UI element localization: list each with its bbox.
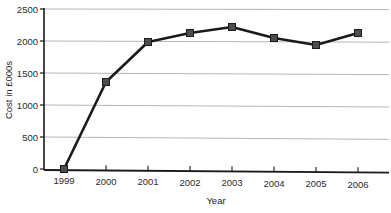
data-point-2006[interactable]	[355, 30, 362, 37]
y-axis-title: Cost in £000s	[3, 61, 14, 119]
x-tick-label-2000: 2000	[95, 176, 116, 187]
y-tick-label-1000: 1000	[17, 100, 38, 111]
x-tick-label-1999: 1999	[53, 175, 74, 186]
x-tick-label-2004: 2004	[263, 178, 284, 189]
x-tick-label-2003: 2003	[221, 177, 242, 188]
chart-canvas: 2500 2000 1500 1000 500 0 Cost in £000s …	[0, 0, 391, 213]
y-tick-label-2500: 2500	[17, 4, 38, 15]
data-point-2004[interactable]	[271, 35, 278, 42]
line-chart: 2500 2000 1500 1000 500 0 Cost in £000s …	[0, 0, 391, 213]
y-tick-label-2000: 2000	[17, 36, 38, 47]
data-point-2002[interactable]	[187, 30, 194, 37]
y-tick-label-500: 500	[22, 132, 38, 143]
gridline-2500	[44, 9, 389, 10]
x-tick-label-2002: 2002	[179, 177, 200, 188]
x-axis-title: Year	[206, 195, 225, 206]
data-point-2001[interactable]	[145, 39, 152, 46]
data-point-2003[interactable]	[229, 24, 236, 31]
data-point-2005[interactable]	[313, 42, 320, 49]
data-point-2000[interactable]	[103, 79, 110, 86]
x-tick-label-2006: 2006	[347, 179, 368, 190]
x-tick-label-2001: 2001	[137, 176, 158, 187]
data-point-1999[interactable]	[61, 166, 68, 173]
y-tick-label-1500: 1500	[17, 68, 38, 79]
y-tick-label-0: 0	[33, 164, 38, 175]
x-tick-label-2005: 2005	[305, 178, 326, 189]
